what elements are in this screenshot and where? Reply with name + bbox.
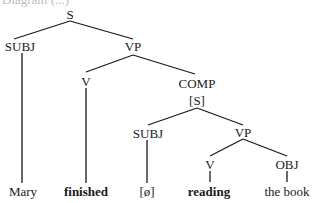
node-v: V xyxy=(81,74,91,89)
leaf-the-book: the book xyxy=(264,184,310,199)
node-obj: OBJ xyxy=(275,157,298,172)
node-vp: VP xyxy=(125,39,142,54)
leaf-finished: finished xyxy=(64,184,109,199)
syntax-tree: Diagram (...) S SUBJ VP V COMP [S] SUBJ … xyxy=(0,0,312,203)
node-subj: SUBJ xyxy=(5,39,35,54)
node-v-embedded: V xyxy=(205,157,215,172)
tree-branches xyxy=(14,21,287,183)
caption-partial: Diagram (...) xyxy=(2,0,69,7)
leaf-null-subject: [ø] xyxy=(139,184,154,199)
leaf-reading: reading xyxy=(188,184,231,199)
node-vp-embedded: VP xyxy=(235,125,252,140)
node-subj-embedded: SUBJ xyxy=(133,126,163,141)
node-comp: COMP xyxy=(179,76,216,91)
node-comp-s: [S] xyxy=(189,93,205,108)
leaf-mary: Mary xyxy=(9,184,38,199)
node-s: S xyxy=(66,7,73,22)
